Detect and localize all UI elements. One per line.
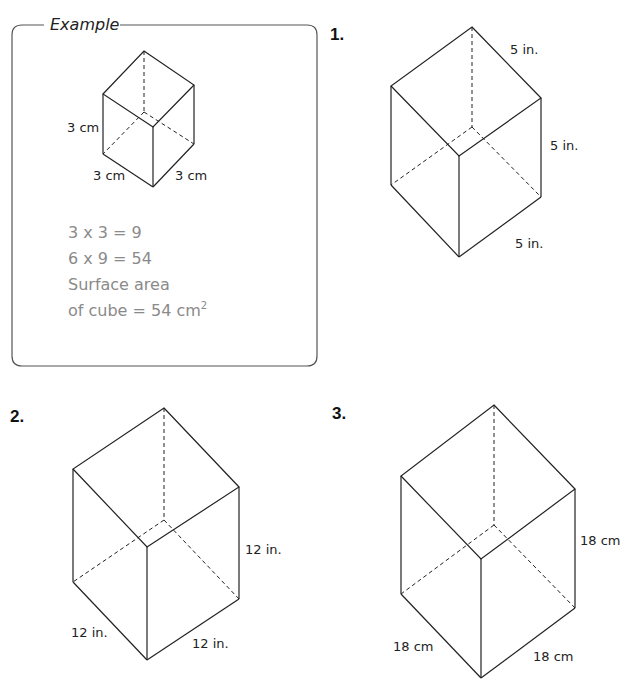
problem-3-number: 3. (332, 404, 346, 423)
work-line-3: Surface area (68, 275, 170, 294)
problem-2-number: 2. (10, 407, 24, 426)
problem-1-number: 1. (330, 25, 344, 44)
problem-1-top-label: 5 in. (510, 42, 538, 57)
work-line-2: 6 x 9 = 54 (68, 249, 152, 268)
work-line-4: of cube = 54 cm2 (68, 300, 207, 320)
example-box: Example 3 cm 3 cm 3 cm 3 x 3 = 9 6 x 9 =… (12, 15, 317, 366)
problem-1-height-label: 5 in. (550, 138, 578, 153)
problem-2-height-label: 12 in. (245, 542, 282, 557)
problem-2-left-label: 12 in. (71, 625, 108, 640)
problem-2: 2. 12 in. 12 in. 12 in. (10, 407, 282, 660)
problem-2-right-label: 12 in. (192, 636, 229, 651)
example-height-label: 3 cm (67, 120, 99, 135)
work-line-1: 3 x 3 = 9 (68, 223, 142, 242)
example-right-label: 3 cm (175, 168, 207, 183)
problem-1: 1. 5 in. 5 in. 5 in. (330, 25, 578, 257)
problem-3-left-label: 18 cm (393, 639, 434, 654)
problem-1-bottom-label: 5 in. (515, 236, 543, 251)
example-title: Example (50, 15, 120, 34)
worksheet-canvas: Example 3 cm 3 cm 3 cm 3 x 3 = 9 6 x 9 =… (0, 0, 635, 686)
example-left-label: 3 cm (93, 168, 125, 183)
problem-3-right-label: 18 cm (533, 649, 574, 664)
problem-3: 3. 18 cm 18 cm 18 cm (332, 404, 621, 678)
example-cube (103, 51, 194, 187)
problem-3-height-label: 18 cm (580, 533, 621, 548)
